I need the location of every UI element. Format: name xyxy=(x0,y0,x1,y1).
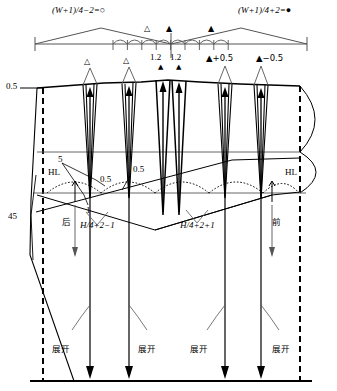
label-back: 后 xyxy=(62,218,71,227)
right-curve-upper xyxy=(300,86,315,152)
label-hl-left: HL xyxy=(48,168,60,177)
ruler-marker-1: △ xyxy=(144,25,150,33)
label-top-left-formula: (W+1)/4−2=○ xyxy=(52,6,105,15)
annotation-leaders xyxy=(37,88,130,205)
front-grain-arrow xyxy=(269,205,275,257)
right-curve-lower xyxy=(300,152,316,193)
expand-label-3: 展开 xyxy=(190,345,208,354)
expand-label-2: 展开 xyxy=(138,345,156,354)
label-note-1: 1 xyxy=(86,206,91,215)
grain-arrows-group xyxy=(72,205,275,257)
label-note-5: 5 xyxy=(58,155,63,164)
label-length-45: 45 xyxy=(8,212,17,221)
left-side-seam xyxy=(30,88,74,381)
formula-front: H/4+2+1 xyxy=(180,221,215,230)
label-top-right-formula: (W+1)/4+2=● xyxy=(238,6,291,15)
dart-6 xyxy=(254,66,268,200)
back-grain-arrow xyxy=(72,205,78,257)
dart-label-3: 1.2 xyxy=(150,53,161,62)
label-waist-ease: 0.5 xyxy=(6,82,17,91)
pattern-diagram: (W+1)/4−2=○ (W+1)/4+2=● △ ▲ ▲ △ △ 1.2 1.… xyxy=(0,0,337,391)
formula-back: H/4+2−1 xyxy=(80,221,115,230)
dart-label-4: 1.2 xyxy=(170,53,181,62)
dart-label-2: △ xyxy=(123,57,129,65)
label-note-05-a: 0.5 xyxy=(100,175,111,184)
dart-2 xyxy=(122,67,136,200)
hip-slope-line-right xyxy=(232,158,300,160)
dart-label-5: ▲+0.5 xyxy=(206,54,233,63)
dart-label-1: △ xyxy=(84,58,90,66)
dart-1 xyxy=(83,68,97,200)
dart-4 xyxy=(172,80,186,215)
label-front: 前 xyxy=(272,218,281,227)
label-hl-right: HL xyxy=(285,168,297,177)
dart-marker-3: ▲ xyxy=(158,64,163,71)
ruler-marker-3: ▲ xyxy=(208,25,214,33)
expand-label-1: 展开 xyxy=(52,345,70,354)
dart-label-6: ▲−0.5 xyxy=(256,54,283,63)
ruler-right-peak xyxy=(171,28,307,44)
dart-marker-4: ▲ xyxy=(176,64,181,71)
zigzag-lower-left xyxy=(37,195,272,230)
expand-label-4: 展开 xyxy=(272,345,290,354)
dart-5 xyxy=(218,66,232,200)
ruler-marker-2: ▲ xyxy=(166,25,172,33)
ruler-left-peak xyxy=(35,28,171,44)
pattern-drawing-canvas xyxy=(0,0,337,391)
waistline xyxy=(37,80,300,88)
label-note-05-b: 0.5 xyxy=(133,165,144,174)
dart-3 xyxy=(156,80,170,215)
